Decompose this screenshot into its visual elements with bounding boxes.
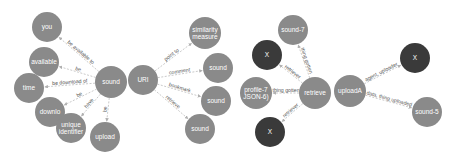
edge-label: be available to xyxy=(66,39,95,65)
graph-node[interactable]: sound-5 xyxy=(412,97,442,127)
node-label: upload xyxy=(95,133,115,141)
node-label: sound xyxy=(207,97,225,104)
node-label: sound-7 xyxy=(281,26,305,33)
graph-node[interactable]: uniqueidentifier xyxy=(56,113,86,143)
graph-node[interactable]: sound xyxy=(203,53,233,83)
graph-node[interactable]: retrieve xyxy=(299,77,331,109)
node-label: measure xyxy=(192,33,218,40)
edge-label: agent, uploader xyxy=(364,61,399,83)
graph-node[interactable]: X xyxy=(400,43,430,73)
node-label: JSON-6) xyxy=(243,93,268,101)
node-label: sound xyxy=(191,125,209,132)
graph-canvas: be available tobebe download ofbehavebep… xyxy=(0,0,459,161)
graph-node[interactable]: you xyxy=(32,12,62,42)
edge-label: be xyxy=(102,106,109,112)
graph-node[interactable]: URI xyxy=(128,65,158,95)
edge-label: be xyxy=(75,90,83,98)
node-label: time xyxy=(23,84,36,91)
graph-node[interactable]: profile-7JSON-6) xyxy=(240,77,272,109)
node-label: you xyxy=(42,23,53,31)
edge-label: bookmark xyxy=(168,81,192,93)
node-label: X xyxy=(265,51,270,58)
graph-node[interactable]: sound xyxy=(201,86,231,116)
node-label: X xyxy=(413,54,418,61)
graph-node[interactable]: X xyxy=(252,40,282,70)
node-label: uploadA xyxy=(338,87,363,95)
node-label: sound xyxy=(102,78,120,85)
edge-label: point to xyxy=(163,47,180,62)
edge-label: retriever xyxy=(284,63,303,80)
node-label: identifier xyxy=(59,128,84,135)
node-label: available xyxy=(31,58,57,65)
node-label: downlo xyxy=(40,108,61,115)
edge xyxy=(154,90,187,119)
node-label: sound xyxy=(209,64,227,71)
edge-label: data, thing uploaded xyxy=(366,89,413,107)
graph-node[interactable]: similaritymeasure xyxy=(189,17,221,49)
graph-node[interactable]: time xyxy=(14,73,44,103)
graph-node[interactable]: sound xyxy=(95,66,127,98)
graph-node[interactable]: uploadA xyxy=(334,75,366,107)
graph-node[interactable]: available xyxy=(29,47,59,77)
edge-label: retriever xyxy=(281,101,300,118)
node-label: X xyxy=(268,128,273,135)
node-label: sound-5 xyxy=(415,108,439,115)
graph-node[interactable]: sound xyxy=(185,114,215,144)
edge-label: thing gotten xyxy=(272,87,299,93)
edge-label: be download of xyxy=(52,77,88,86)
edge-label: retrieve xyxy=(165,94,182,110)
node-label: retrieve xyxy=(304,89,326,96)
edge-label: be xyxy=(75,65,82,72)
graph-node[interactable]: sound-7 xyxy=(278,15,308,45)
graph-node[interactable]: X xyxy=(255,117,285,147)
graph-node[interactable]: upload xyxy=(90,122,120,152)
node-label: URI xyxy=(137,76,148,83)
